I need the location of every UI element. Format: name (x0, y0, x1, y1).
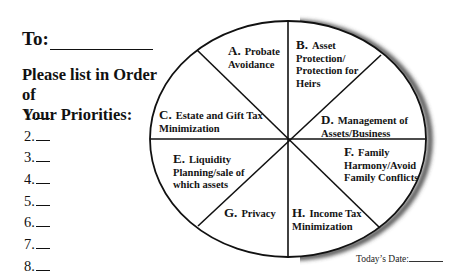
segment-text: Family (358, 147, 390, 158)
segment-text: Income Tax (309, 208, 361, 219)
segment-text: Assets/Business (321, 128, 408, 141)
segment-h: H.Income Tax Minimization (292, 207, 362, 233)
segment-text: Planning/sale of (173, 167, 244, 180)
segment-letter: G. (224, 205, 237, 220)
segment-d: D.Management of Assets/Business (321, 114, 408, 140)
segment-text: Protection for (296, 65, 359, 78)
segment-text: Asset (312, 40, 336, 51)
segment-text: Minimization (292, 221, 362, 234)
segment-text: Harmony/Avoid (344, 160, 418, 173)
segment-letter: F. (344, 144, 354, 159)
segment-letter: H. (292, 205, 305, 220)
segment-letter: D. (321, 112, 334, 127)
segment-letter: A. (228, 43, 241, 58)
date-input-blank[interactable] (409, 252, 443, 262)
segment-text: Probate (245, 46, 280, 57)
segment-text: Estate and Gift Tax (176, 110, 263, 121)
segment-letter: E. (173, 151, 185, 166)
segment-f: F.Family Harmony/Avoid Family Conflicts (344, 146, 418, 185)
segment-letter: C. (159, 107, 172, 122)
segment-text: Heirs (296, 78, 359, 91)
segment-text: Protection/ (296, 53, 359, 66)
segment-text: Avoidance (228, 59, 280, 72)
segment-text: Privacy (241, 208, 275, 219)
segment-text: which assets (173, 179, 244, 192)
segment-c: C.Estate and Gift Tax Minimization (159, 109, 263, 135)
segment-b: B.Asset Protection/ Protection for Heirs (296, 39, 359, 90)
todays-date-row: Today’s Date: (356, 252, 443, 264)
segment-e: E.Liquidity Planning/sale of which asset… (173, 153, 244, 192)
segment-letter: B. (296, 37, 308, 52)
date-label: Today’s Date: (356, 254, 409, 264)
segment-a: A.Probate Avoidance (228, 45, 280, 71)
segment-text: Management of (338, 115, 408, 126)
segment-g: G.Privacy (224, 207, 276, 221)
segment-text: Minimization (159, 123, 263, 136)
segment-text: Family Conflicts (344, 172, 418, 185)
segment-text: Liquidity (189, 154, 231, 165)
